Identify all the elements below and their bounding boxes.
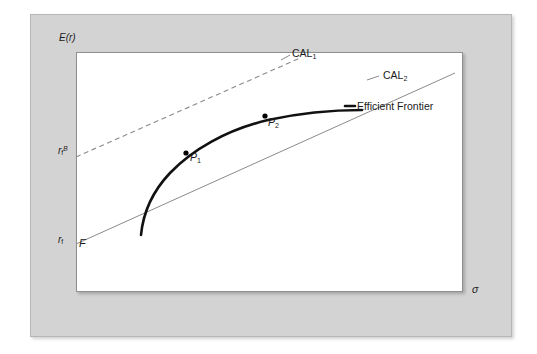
point-f-label: F (79, 238, 86, 249)
cal2-label: CAL2 (383, 70, 407, 83)
p1-subscript: 1 (197, 157, 201, 165)
x-axis-label: σ (472, 284, 478, 295)
point-p2-label: P2 (268, 117, 279, 130)
cal2-subscript: 2 (403, 75, 407, 83)
figure-screenshot: E(r) rfB rf F CAL1 CAL2 Efficient Fronti… (0, 0, 537, 354)
p1-text: P (190, 151, 197, 163)
risk-free-borrow-rate-label: rfB (58, 146, 68, 157)
y-axis-label: E(r) (59, 33, 76, 43)
risk-free-lend-rate-label: rf (58, 235, 63, 246)
cal1-subscript: 1 (312, 53, 316, 61)
plot-area (76, 52, 463, 292)
efficient-frontier-label: Efficient Frontier (357, 101, 433, 112)
p2-text: P (268, 116, 275, 128)
cal1-label: CAL1 (292, 48, 316, 61)
rfb-superscript: B (63, 145, 67, 152)
point-p1-label: P1 (190, 152, 201, 165)
cal1-text: CAL (292, 47, 312, 59)
cal2-text: CAL (383, 69, 403, 81)
p2-subscript: 2 (275, 122, 279, 130)
rf-subscript: f (61, 238, 63, 245)
